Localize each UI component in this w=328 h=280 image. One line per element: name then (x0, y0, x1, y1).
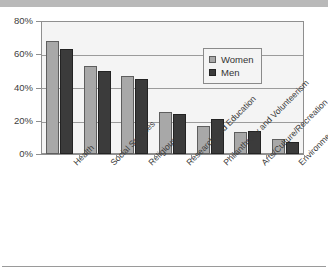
bar-women-2 (121, 76, 134, 154)
legend-swatch-women-icon (209, 56, 216, 63)
x-tick-6 (304, 155, 305, 159)
bar-women-6 (272, 139, 285, 154)
x-axis-label-2: Religious (147, 161, 153, 167)
y-axis-label-0: 0% (0, 149, 33, 159)
bar-women-5 (234, 132, 247, 154)
x-axis-label-4: Philanthropy and Volunteerism (222, 161, 228, 167)
bar-men-6 (286, 142, 299, 154)
x-axis-label-6: Environment (297, 161, 303, 167)
x-axis-label-0: Health (72, 161, 78, 167)
legend-swatch-men-icon (209, 69, 216, 76)
bar-women-1 (84, 66, 97, 154)
y-axis-label-20: 20% (0, 116, 33, 126)
x-tick-1 (116, 155, 117, 159)
x-tick-0 (79, 155, 80, 159)
chart-legend: Women Men (203, 48, 262, 84)
bar-women-3 (159, 112, 172, 154)
bar-women-0 (46, 41, 59, 154)
bar-men-5 (248, 131, 261, 154)
y-axis-label-40: 40% (0, 83, 33, 93)
x-axis-label-3: Research and Education (185, 161, 191, 167)
x-axis-label-5: Arts/Culture/Recreation (260, 161, 266, 167)
plot-container: 80% 60% 40% 20% 0% HealthSocial Services… (0, 0, 328, 280)
bar-men-4 (211, 119, 224, 154)
bottom-divider (2, 266, 326, 267)
x-axis-label-1: Social Services (109, 161, 115, 167)
bar-women-4 (197, 126, 210, 154)
x-axis-line (41, 154, 304, 155)
legend-item-women: Women (209, 53, 254, 66)
legend-item-men: Men (209, 66, 254, 79)
y-axis-label-60: 60% (0, 49, 33, 59)
chart-figure: 80% 60% 40% 20% 0% HealthSocial Services… (0, 0, 328, 280)
x-tick-4 (229, 155, 230, 159)
x-tick-3 (191, 155, 192, 159)
bars-layer (41, 21, 304, 154)
legend-label-men: Men (221, 68, 239, 78)
x-tick-2 (154, 155, 155, 159)
bar-men-3 (173, 114, 186, 154)
legend-label-women: Women (221, 55, 254, 65)
bar-men-0 (60, 49, 73, 154)
bar-men-2 (135, 79, 148, 154)
x-tick-5 (266, 155, 267, 159)
bar-men-1 (98, 71, 111, 154)
y-axis-label-80: 80% (0, 16, 33, 26)
